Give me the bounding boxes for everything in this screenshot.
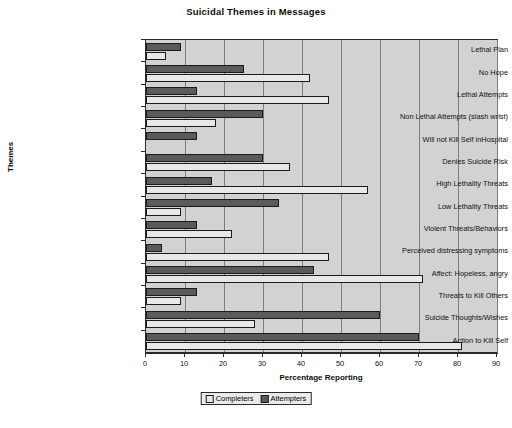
- y-axis-label: Violent Threats/Behaviors: [370, 225, 512, 233]
- gridline-90: [497, 40, 498, 353]
- y-axis-tick: [141, 151, 145, 152]
- y-axis-tick: [141, 196, 145, 197]
- bar-attempters: [146, 132, 197, 140]
- bar-attempters: [146, 154, 263, 162]
- y-axis-tick: [141, 106, 145, 107]
- y-axis-label: Denies Suicide Risk: [370, 158, 512, 166]
- x-axis-tick-label: 50: [336, 359, 344, 368]
- legend-label: Completers: [216, 394, 254, 403]
- y-axis-label: Lethal Attempts: [370, 91, 512, 99]
- x-axis-tick-label: 30: [258, 359, 266, 368]
- x-axis-tick: [379, 353, 380, 357]
- x-axis-tick: [457, 353, 458, 357]
- bar-completers: [146, 253, 329, 261]
- x-axis-title: Percentage Reporting: [145, 373, 497, 382]
- bar-completers: [146, 320, 255, 328]
- chart-legend: CompletersAttempters: [201, 392, 312, 405]
- legend-swatch-icon: [261, 395, 269, 403]
- x-axis-tick-label: 90: [492, 359, 500, 368]
- x-axis-tick-label: 80: [453, 359, 461, 368]
- y-axis-label: Low Lethality Threats: [370, 203, 512, 211]
- x-axis-tick: [262, 353, 263, 357]
- y-axis-tick: [141, 128, 145, 129]
- bar-completers: [146, 230, 232, 238]
- y-axis-tick: [141, 330, 145, 331]
- x-axis-tick: [184, 353, 185, 357]
- y-axis-tick: [141, 307, 145, 308]
- bar-attempters: [146, 177, 212, 185]
- bar-completers: [146, 208, 181, 216]
- bar-attempters: [146, 87, 197, 95]
- x-axis-line: [145, 352, 497, 353]
- bar-attempters: [146, 311, 380, 319]
- x-axis-tick-label: 70: [414, 359, 422, 368]
- bar-completers: [146, 96, 329, 104]
- y-axis-label: Will not Kill Self inHospital: [370, 136, 512, 144]
- y-axis-label: Lethal Plan: [370, 46, 512, 54]
- y-axis-label: Perceived distressing symptoms: [370, 247, 512, 255]
- y-axis-label: High Lethality Threats: [370, 180, 512, 188]
- bar-attempters: [146, 65, 244, 73]
- x-axis-tick-label: 0: [143, 359, 147, 368]
- y-axis-tick: [141, 39, 145, 40]
- bar-attempters: [146, 288, 197, 296]
- x-axis-tick-label: 40: [297, 359, 305, 368]
- bar-attempters: [146, 221, 197, 229]
- bar-completers: [146, 186, 368, 194]
- bar-attempters: [146, 43, 181, 51]
- bar-attempters: [146, 110, 263, 118]
- legend-item: Completers: [206, 394, 254, 403]
- x-axis-tick-label: 60: [375, 359, 383, 368]
- x-axis-tick: [301, 353, 302, 357]
- y-axis-label: Non Lethal Attempts (slash wrist): [370, 113, 512, 121]
- x-axis-tick: [145, 353, 146, 357]
- bar-completers: [146, 74, 310, 82]
- x-axis-tick: [418, 353, 419, 357]
- bar-completers: [146, 163, 290, 171]
- y-axis-label: No Hope: [370, 69, 512, 77]
- x-axis-tick-label: 20: [219, 359, 227, 368]
- y-axis-title: Themes: [6, 142, 15, 172]
- chart-figure: Suicidal Themes in Messages Lethal PlanN…: [0, 0, 512, 428]
- plot-area: [145, 39, 498, 354]
- y-axis-tick: [141, 84, 145, 85]
- y-axis-tick: [141, 263, 145, 264]
- y-axis-tick: [141, 218, 145, 219]
- x-axis-tick: [340, 353, 341, 357]
- y-axis-tick: [141, 61, 145, 62]
- y-axis-label: Suicide Thoughts/Wishes: [370, 314, 512, 322]
- x-axis-tick: [223, 353, 224, 357]
- y-axis-tick: [141, 173, 145, 174]
- bar-attempters: [146, 244, 162, 252]
- legend-swatch-icon: [206, 395, 214, 403]
- x-axis-tick-label: 10: [180, 359, 188, 368]
- bar-completers: [146, 297, 181, 305]
- bar-attempters: [146, 199, 279, 207]
- y-axis-tick: [141, 240, 145, 241]
- legend-label: Attempters: [271, 394, 307, 403]
- y-axis-label: Affect: Hopeless, angry: [370, 270, 512, 278]
- legend-item: Attempters: [261, 394, 307, 403]
- bar-completers: [146, 119, 216, 127]
- chart-title: Suicidal Themes in Messages: [0, 6, 512, 17]
- x-axis-tick: [496, 353, 497, 357]
- bar-completers: [146, 52, 166, 60]
- y-axis-label: Threats to Kill Others: [370, 292, 512, 300]
- y-axis-tick: [141, 285, 145, 286]
- bar-rows: [146, 40, 497, 353]
- bar-attempters: [146, 266, 314, 274]
- y-axis-label: Action to Kill Self: [370, 337, 512, 345]
